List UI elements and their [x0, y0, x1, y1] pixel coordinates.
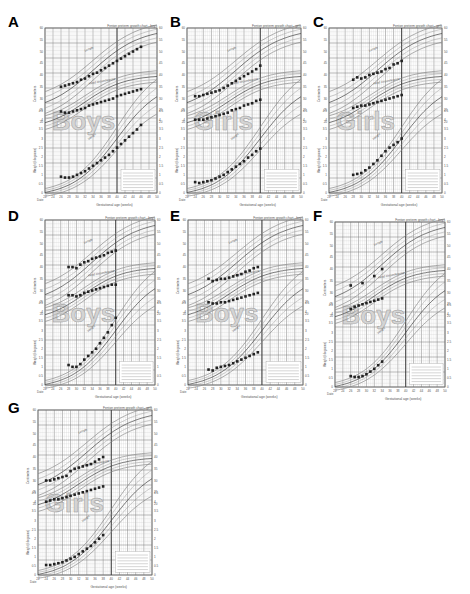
svg-text:34: 34 — [85, 577, 89, 581]
svg-text:0: 0 — [154, 573, 156, 577]
svg-text:42: 42 — [118, 577, 122, 581]
svg-text:0.5: 0.5 — [32, 564, 37, 568]
svg-text:40: 40 — [33, 455, 37, 459]
svg-text:50: 50 — [33, 432, 37, 436]
svg-text:4.5: 4.5 — [32, 491, 37, 495]
svg-text:46: 46 — [134, 577, 138, 581]
svg-text:45: 45 — [33, 443, 37, 447]
svg-text:60: 60 — [154, 408, 158, 412]
svg-text:1: 1 — [34, 555, 36, 559]
svg-text:3: 3 — [34, 519, 36, 523]
svg-text:0.5: 0.5 — [154, 564, 159, 568]
svg-text:50: 50 — [150, 577, 154, 581]
svg-text:4: 4 — [34, 500, 36, 504]
svg-text:2: 2 — [154, 537, 156, 541]
svg-text:1: 1 — [154, 555, 156, 559]
svg-text:44: 44 — [126, 577, 130, 581]
svg-text:45: 45 — [154, 443, 158, 447]
y-axis-label-kg: Weight (kilograms) — [26, 530, 30, 555]
svg-text:3.5: 3.5 — [32, 509, 37, 513]
svg-text:60: 60 — [33, 408, 37, 412]
svg-text:3.5: 3.5 — [154, 509, 159, 513]
svg-text:2: 2 — [34, 537, 36, 541]
svg-text:35: 35 — [154, 467, 158, 471]
svg-text:28: 28 — [61, 577, 65, 581]
svg-text:35: 35 — [33, 467, 37, 471]
svg-text:2.5: 2.5 — [154, 528, 159, 532]
svg-text:26: 26 — [53, 577, 57, 581]
svg-text:24: 24 — [44, 577, 48, 581]
svg-text:30: 30 — [154, 479, 158, 483]
svg-text:48: 48 — [142, 577, 146, 581]
x-axis-label: Gestational age (weeks) — [90, 585, 127, 589]
svg-text:55: 55 — [154, 420, 158, 424]
svg-text:40: 40 — [110, 577, 114, 581]
svg-text:50: 50 — [154, 432, 158, 436]
svg-text:30: 30 — [33, 479, 37, 483]
svg-text:2.5: 2.5 — [32, 528, 37, 532]
svg-text:40: 40 — [154, 455, 158, 459]
svg-text:Date: Date — [30, 580, 37, 584]
svg-text:22: 22 — [36, 577, 40, 581]
svg-text:30: 30 — [69, 577, 73, 581]
svg-text:1.5: 1.5 — [154, 546, 159, 550]
chart-title: Fenton preterm growth chart - girls — [103, 406, 152, 410]
svg-text:32: 32 — [77, 577, 81, 581]
svg-text:1.5: 1.5 — [32, 546, 37, 550]
y-axis-label-cm: Centimeters — [26, 467, 30, 484]
svg-text:38: 38 — [101, 577, 105, 581]
sex-watermark: Girls — [45, 488, 104, 518]
svg-text:36: 36 — [93, 577, 97, 581]
svg-text:4.5: 4.5 — [154, 491, 159, 495]
legend-box — [115, 551, 150, 572]
svg-text:3: 3 — [154, 519, 156, 523]
svg-text:55: 55 — [33, 420, 37, 424]
growth-chart-panel-g: GirlsLengthHead circumferenceWeightFento… — [0, 0, 470, 594]
